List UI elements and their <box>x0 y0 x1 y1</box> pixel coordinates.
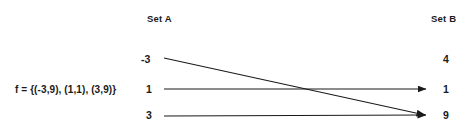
set-b-element-1: 1 <box>443 84 449 95</box>
set-b-element-2: 9 <box>443 110 449 121</box>
set-a-element-2: 3 <box>146 110 152 121</box>
set-b-element-0: 4 <box>443 54 449 65</box>
set-a-header: Set A <box>147 14 172 24</box>
arrow-neg3-to-9 <box>164 58 425 115</box>
set-a-element-0: -3 <box>141 54 150 65</box>
arrow-layer <box>0 0 475 132</box>
set-a-element-1: 1 <box>146 84 152 95</box>
set-b-header: Set B <box>431 14 456 24</box>
arrow-3-to-9 <box>164 115 426 116</box>
function-formula: f = {(-3,9), (1,1), (3,9)} <box>15 85 116 95</box>
mapping-diagram: Set A Set B f = {(-3,9), (1,1), (3,9)} -… <box>0 0 475 132</box>
